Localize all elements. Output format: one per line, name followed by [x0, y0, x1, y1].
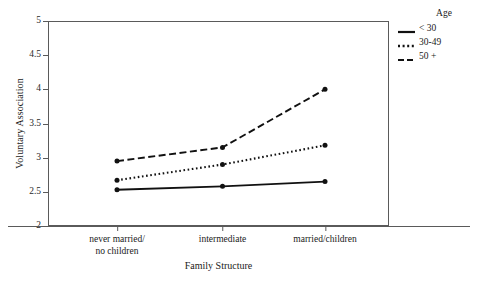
legend-label: 50 +	[419, 51, 436, 61]
legend-label: 30-49	[419, 37, 441, 47]
x-tick: never married/ no children	[89, 226, 145, 249]
legend-title: Age	[414, 8, 474, 18]
data-point	[323, 179, 328, 184]
legend-item-3[interactable]: 50 +	[398, 49, 474, 62]
data-point	[115, 187, 120, 192]
series-line-3	[117, 89, 325, 161]
x-tick-mark	[222, 226, 223, 231]
x-tick-mark	[325, 226, 326, 231]
legend-label: < 30	[419, 23, 436, 33]
x-tick-label: never married/ no children	[89, 234, 145, 257]
x-tick-mark	[117, 226, 118, 231]
legend-item-1[interactable]: < 30	[398, 21, 474, 34]
data-point	[115, 178, 120, 183]
x-tick-label: intermediate	[199, 234, 246, 246]
data-point	[220, 145, 225, 150]
data-point	[220, 162, 225, 167]
legend-line-swatch-icon	[398, 37, 415, 47]
x-tick: married/children	[293, 226, 356, 238]
legend-item-2[interactable]: 30-49	[398, 35, 474, 48]
data-point	[220, 184, 225, 189]
legend-line-swatch-icon	[398, 51, 415, 61]
x-tick: intermediate	[199, 226, 246, 238]
legend-line-swatch-icon	[398, 23, 415, 33]
data-point	[323, 87, 328, 92]
data-point	[115, 159, 120, 164]
data-point	[323, 143, 328, 148]
x-axis-title: Family Structure	[48, 260, 389, 271]
x-tick-label: married/children	[293, 234, 356, 246]
line-chart-figure: 22.533.544.55 Voluntary Association neve…	[0, 0, 477, 288]
legend: Age < 3030-4950 +	[398, 8, 474, 63]
